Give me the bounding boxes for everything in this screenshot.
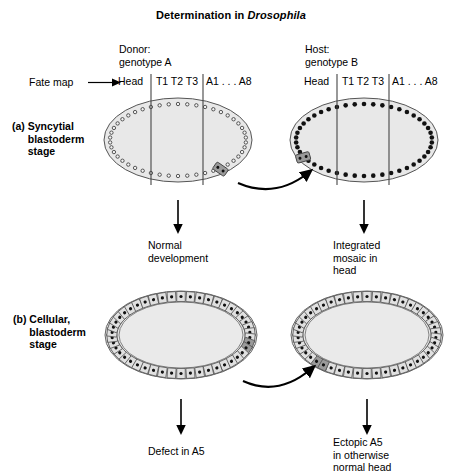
nucleus	[428, 145, 433, 150]
nucleus	[167, 174, 170, 177]
nucleus	[380, 172, 385, 177]
nucleus	[326, 168, 331, 173]
nucleus	[116, 122, 119, 125]
nucleus	[362, 102, 367, 107]
blastoderm-cell	[343, 366, 353, 377]
nucleus	[243, 146, 246, 149]
determination-in-drosophila-figure: Determination in Drosophila Donor: genot…	[0, 0, 462, 472]
nucleus	[312, 162, 317, 167]
blastoderm-cell	[363, 292, 371, 302]
nucleus	[232, 118, 235, 121]
nucleus	[295, 145, 300, 150]
nucleus	[397, 107, 402, 112]
blastoderm-cell	[157, 366, 167, 377]
embryo-inner-outline	[305, 302, 429, 368]
nucleus	[158, 173, 161, 176]
nucleus	[371, 173, 376, 178]
blastoderm-cell	[177, 369, 185, 379]
blastoderm-cell	[381, 292, 391, 303]
blastoderm-cell	[363, 369, 371, 379]
nucleus	[240, 126, 243, 129]
nucleus	[240, 150, 243, 153]
nucleus	[422, 154, 427, 159]
nucleus	[428, 130, 433, 135]
nucleus	[430, 140, 435, 145]
blastoderm-cell	[148, 294, 159, 306]
nucleus	[380, 103, 385, 108]
blastoderm-cell	[372, 368, 381, 379]
blastoderm-cell	[372, 292, 381, 303]
nucleus	[405, 110, 410, 115]
nucleus	[186, 103, 189, 106]
nucleus	[110, 146, 113, 149]
nucleus	[426, 150, 431, 155]
nucleus	[298, 126, 303, 131]
nucleus	[352, 102, 357, 107]
nucleus	[141, 108, 144, 111]
nucleus	[232, 159, 235, 162]
nucleus	[352, 173, 357, 178]
nucleus	[426, 126, 431, 131]
nucleus	[294, 140, 299, 145]
nucleus	[319, 166, 324, 171]
nucleus	[121, 118, 124, 121]
nucleus	[186, 174, 189, 177]
nucleus	[127, 114, 130, 117]
nucleus	[430, 135, 435, 140]
nucleus	[301, 121, 306, 126]
embryo-inner-outline	[119, 302, 243, 368]
blastoderm-cell	[353, 368, 362, 379]
nucleus	[108, 141, 111, 144]
blastoderm-cell	[195, 292, 205, 303]
nucleus	[411, 113, 416, 118]
nucleus	[422, 121, 427, 126]
nucleus	[417, 117, 422, 122]
blastoderm-cell	[195, 366, 205, 377]
transfer-arrow-panel-b	[243, 369, 311, 387]
nucleus	[133, 166, 136, 169]
nucleus	[203, 105, 206, 108]
panel-a-donor-embryo	[104, 98, 252, 182]
embryo-outline	[104, 98, 252, 182]
nucleus	[405, 166, 410, 171]
blastoderm-cell	[177, 292, 185, 302]
nucleus	[219, 110, 222, 113]
nucleus	[141, 169, 144, 172]
blastoderm-cell	[203, 364, 214, 376]
blastoderm-cell	[167, 368, 176, 379]
nucleus	[244, 141, 247, 144]
nucleus	[362, 174, 367, 179]
nucleus	[237, 155, 240, 158]
nucleus	[319, 110, 324, 115]
nucleus	[176, 102, 179, 105]
nucleus	[110, 131, 113, 134]
nucleus	[195, 104, 198, 107]
blastoderm-cell	[334, 294, 345, 306]
blastoderm-cell	[389, 364, 400, 376]
nucleus	[121, 159, 124, 162]
nucleus	[417, 158, 422, 163]
nucleus	[112, 150, 115, 153]
nucleus	[306, 117, 311, 122]
nucleus	[397, 168, 402, 173]
nucleus	[295, 130, 300, 135]
embryo-outline	[290, 98, 438, 182]
blastoderm-cell	[157, 292, 167, 303]
nucleus	[326, 107, 331, 112]
nucleus	[195, 173, 198, 176]
nucleus	[158, 104, 161, 107]
blastoderm-cell	[381, 366, 391, 377]
panel-a-host-embryo	[290, 98, 438, 182]
blastoderm-cell	[343, 292, 353, 303]
nucleus	[212, 108, 215, 111]
panel-b-donor-embryo	[105, 291, 257, 379]
nucleus	[116, 155, 119, 158]
nucleus	[343, 103, 348, 108]
nucleus	[203, 171, 206, 174]
blastoderm-cell	[186, 292, 195, 303]
transfer-arrow-panel-a	[238, 173, 308, 189]
nucleus	[237, 122, 240, 125]
panel-b-host-embryo	[291, 291, 443, 379]
nucleus	[312, 113, 317, 118]
nucleus	[343, 172, 348, 177]
